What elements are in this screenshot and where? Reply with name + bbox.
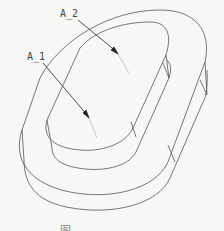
label-a2: A_2	[60, 8, 78, 19]
ring-drawing	[0, 0, 224, 231]
inner-top-edge	[46, 22, 169, 150]
figure-caption: 图	[60, 222, 71, 231]
diagram-canvas: A_2 A_1 图	[0, 0, 224, 231]
label-a1: A_1	[27, 51, 45, 62]
inner-bottom-edge	[52, 60, 171, 169]
a1-leader	[43, 63, 88, 116]
